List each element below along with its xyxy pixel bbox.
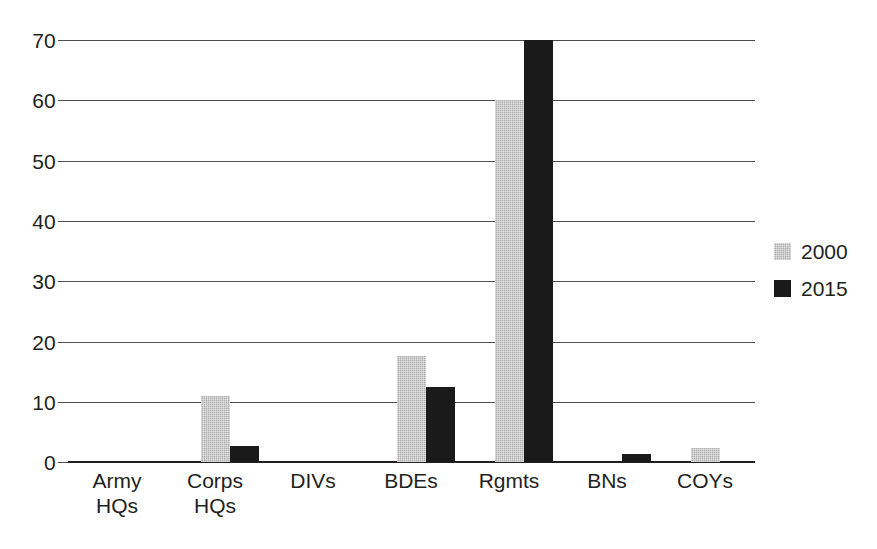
legend-item-2000[interactable]: 2000 [774, 240, 874, 262]
y-tick-dash [58, 40, 68, 41]
x-label-line2: HQs [67, 493, 167, 518]
y-tick-label: 60 [10, 90, 56, 111]
x-label-army-hqs: Army HQs [67, 468, 167, 518]
y-axis: 70 60 50 40 30 20 10 0 [0, 0, 56, 549]
bar-2015-bdes[interactable] [426, 387, 455, 462]
black-swatch-icon [774, 280, 791, 297]
x-label-coys: COYs [655, 468, 755, 493]
y-tick-dash [58, 342, 68, 343]
x-label-bns: BNs [557, 468, 657, 493]
x-label-line2: HQs [165, 493, 265, 518]
y-tick-dash [58, 221, 68, 222]
y-tick-dash [58, 100, 68, 101]
gray-dither-swatch-icon [774, 243, 791, 260]
x-label-line1: Corps [187, 469, 243, 492]
legend-item-2015[interactable]: 2015 [774, 277, 874, 299]
bar-2015-bns[interactable] [622, 454, 651, 462]
x-label-line1: Rgmts [479, 469, 540, 492]
chart-legend: 2000 2015 [774, 240, 874, 314]
bar-2000-corps-hqs[interactable] [201, 396, 230, 462]
x-label-rgmts: Rgmts [459, 468, 559, 493]
bar-2000-rgmts[interactable] [495, 100, 524, 462]
bar-2015-corps-hqs[interactable] [230, 446, 259, 462]
y-tick-label: 70 [10, 30, 56, 51]
y-tick-label: 30 [10, 271, 56, 292]
y-tick-label: 50 [10, 151, 56, 172]
y-tick-label: 40 [10, 211, 56, 232]
y-tick-label: 20 [10, 332, 56, 353]
bar-chart-figure: 70 60 50 40 30 20 10 0 [0, 0, 877, 549]
y-tick-dash [58, 402, 68, 403]
legend-label-2015: 2015 [801, 278, 848, 299]
x-label-line1: COYs [677, 469, 733, 492]
y-tick-label: 0 [10, 452, 56, 473]
bar-2000-bdes[interactable] [397, 356, 426, 462]
y-tick-label: 10 [10, 392, 56, 413]
x-axis-labels: Army HQs Corps HQs DIVs BDEs Rgmts BNs C… [68, 468, 755, 538]
bar-2000-coys[interactable] [691, 448, 720, 462]
legend-label-2000: 2000 [801, 241, 848, 262]
x-label-divs: DIVs [263, 468, 363, 493]
y-tick-dash [58, 161, 68, 162]
x-label-bdes: BDEs [361, 468, 461, 493]
x-label-line1: BNs [587, 469, 627, 492]
bars-layer [68, 40, 755, 462]
x-label-line1: BDEs [384, 469, 438, 492]
x-label-corps-hqs: Corps HQs [165, 468, 265, 518]
x-label-line1: Army [93, 469, 142, 492]
x-label-line1: DIVs [290, 469, 336, 492]
y-tick-dash [58, 462, 68, 463]
y-tick-dash [58, 281, 68, 282]
bar-2015-rgmts[interactable] [524, 40, 553, 462]
